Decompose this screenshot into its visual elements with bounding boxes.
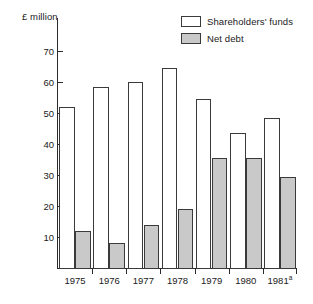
x-axis-label-1976: 1976 (92, 275, 126, 286)
x-axis-label-1981: 1981a (263, 275, 297, 286)
legend-item-net-debt: Net debt (181, 31, 293, 45)
x-axis-label-1978: 1978 (160, 275, 194, 286)
legend-swatch-gray-icon (181, 33, 201, 44)
bar-net-debt-1980 (246, 158, 262, 269)
legend-label-shareholders-funds: Shareholders' funds (207, 16, 293, 27)
y-tick-label-20: 20 (43, 201, 54, 212)
chart-legend: Shareholders' funds Net debt (181, 14, 293, 48)
y-tick-70 (58, 51, 63, 52)
y-tick-60 (58, 82, 63, 83)
bar-chart: £ million Shareholders' funds Net debt 1… (0, 0, 313, 304)
legend-item-shareholders-funds: Shareholders' funds (181, 14, 293, 28)
y-tick-label-30: 30 (43, 170, 54, 181)
x-axis-label-1977: 1977 (126, 275, 160, 286)
x-axis-separator-2 (160, 268, 161, 274)
bar-shareholders-funds-1979 (196, 99, 212, 269)
x-axis-label-1980: 1980 (229, 275, 263, 286)
x-axis-label-1979: 1979 (195, 275, 229, 286)
x-axis-separator-4 (229, 268, 230, 274)
y-tick-label-50: 50 (43, 108, 54, 119)
bar-shareholders-funds-1980 (230, 133, 246, 269)
bar-net-debt-1976 (109, 243, 125, 269)
bar-net-debt-1977 (144, 225, 160, 269)
x-axis-separator-5 (263, 268, 264, 274)
x-axis-separator-1 (126, 268, 127, 274)
x-axis-separator-0 (92, 268, 93, 274)
bar-net-debt-1978 (178, 209, 194, 269)
y-tick-label-40: 40 (43, 139, 54, 150)
bar-net-debt-1981 (280, 177, 296, 269)
x-axis-separator-end (296, 268, 297, 274)
legend-swatch-white-icon (181, 16, 201, 27)
x-axis-label-footnote-1981: a (289, 274, 293, 281)
bar-net-debt-1975 (75, 231, 91, 269)
bar-net-debt-1979 (212, 158, 228, 269)
bar-shareholders-funds-1978 (162, 68, 178, 269)
y-axis-unit-label: £ million (22, 11, 58, 22)
bar-shareholders-funds-1975 (59, 107, 75, 269)
y-tick-label-60: 60 (43, 77, 54, 88)
legend-label-net-debt: Net debt (207, 33, 244, 44)
bar-shareholders-funds-1976 (93, 87, 109, 269)
y-tick-label-70: 70 (43, 46, 54, 57)
bar-shareholders-funds-1977 (128, 82, 144, 269)
x-axis-separator-3 (195, 268, 196, 274)
x-axis-label-1975: 1975 (58, 275, 92, 286)
bar-shareholders-funds-1981 (264, 118, 280, 269)
y-tick-label-10: 10 (43, 232, 54, 243)
